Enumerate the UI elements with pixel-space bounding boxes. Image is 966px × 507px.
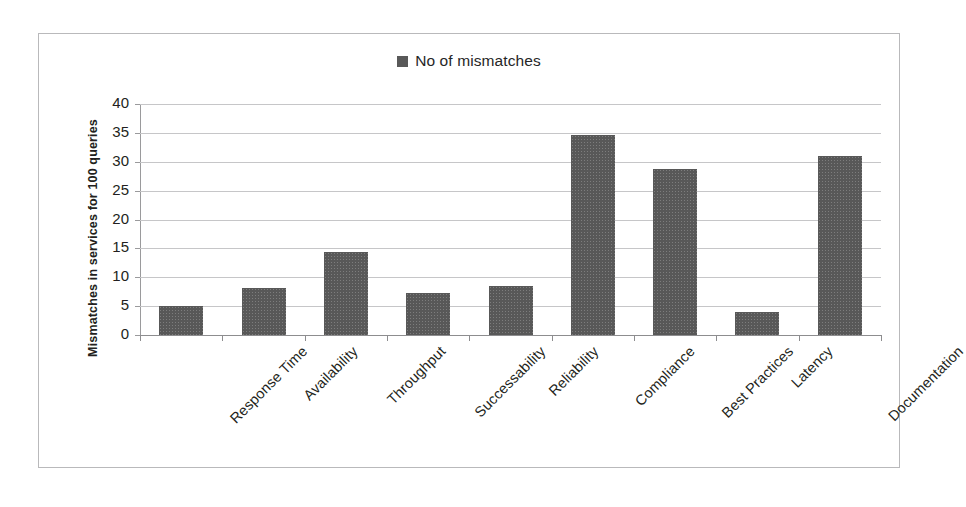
plot-area: 4035302520151050 (140, 104, 881, 335)
gridline-35 (140, 133, 881, 134)
y-tick-mark-35 (135, 133, 140, 134)
y-tick-label-10: 10 (69, 267, 129, 284)
gridline-10 (140, 277, 881, 278)
bar-documentation (818, 156, 862, 335)
x-tick-mark-9 (881, 335, 882, 341)
y-tick-label-35: 35 (69, 123, 129, 140)
x-label-response-time: Response Time (227, 343, 310, 426)
y-tick-mark-5 (135, 306, 140, 307)
y-tick-label-20: 20 (69, 210, 129, 227)
gridline-40 (140, 104, 881, 105)
y-tick-label-40: 40 (69, 94, 129, 111)
y-tick-label-0: 0 (69, 325, 129, 342)
x-label-reliability: Reliability (545, 343, 601, 399)
y-tick-mark-20 (135, 220, 140, 221)
y-tick-label-25: 25 (69, 181, 129, 198)
bar-throughput (324, 252, 368, 335)
y-tick-label-5: 5 (69, 296, 129, 313)
x-label-documentation: Documentation (885, 343, 966, 424)
gridline-25 (140, 191, 881, 192)
bar-best-practices (653, 169, 697, 335)
y-tick-mark-30 (135, 162, 140, 163)
x-label-availability: Availability (300, 343, 360, 403)
x-label-best-practices: Best Practices (719, 343, 797, 421)
chart-figure-frame: No of mismatches Mismatches in services … (38, 33, 900, 468)
y-tick-mark-40 (135, 104, 140, 105)
x-label-successability: Successability (471, 343, 548, 420)
bar-reliability (489, 286, 533, 335)
x-axis-category-labels: Response TimeAvailabilityThroughputSucce… (140, 335, 881, 465)
y-tick-mark-15 (135, 248, 140, 249)
chart-legend: No of mismatches (39, 52, 899, 70)
y-tick-mark-10 (135, 277, 140, 278)
y-tick-mark-25 (135, 191, 140, 192)
gridline-20 (140, 220, 881, 221)
gridline-30 (140, 162, 881, 163)
bar-response-time (159, 306, 203, 335)
x-label-compliance: Compliance (632, 343, 698, 409)
bar-latency (735, 312, 779, 335)
bar-successability (406, 293, 450, 335)
y-tick-label-30: 30 (69, 152, 129, 169)
bar-availability (242, 288, 286, 335)
gridline-15 (140, 248, 881, 249)
legend-swatch-no-of-mismatches (397, 56, 408, 67)
legend-label-no-of-mismatches: No of mismatches (415, 52, 541, 70)
x-label-latency: Latency (788, 343, 836, 391)
bar-compliance (571, 135, 615, 335)
y-tick-label-15: 15 (69, 238, 129, 255)
x-label-throughput: Throughput (384, 343, 448, 407)
